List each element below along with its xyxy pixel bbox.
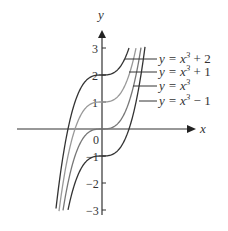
label-x3-minus-1: y = x3 − 1 xyxy=(157,92,211,108)
x-axis-label: x xyxy=(199,121,206,136)
tick-minus-2: −2 xyxy=(86,177,99,191)
cubic-graph: x y 3 2 1 0 −1 −2 −3 y = x3 + 2 y = x3 +… xyxy=(0,0,228,231)
tick-3: 3 xyxy=(92,42,98,56)
tick-minus-3: −3 xyxy=(86,204,99,218)
leader-lines xyxy=(125,59,157,101)
label-x3-plus-1: y = x3 + 1 xyxy=(157,63,211,79)
tick-0: 0 xyxy=(93,133,99,147)
label-x3: y = x3 xyxy=(157,77,191,93)
y-axis-arrow-icon xyxy=(98,30,106,38)
x-axis-arrow-icon xyxy=(187,125,196,133)
y-axis-label: y xyxy=(96,7,104,22)
